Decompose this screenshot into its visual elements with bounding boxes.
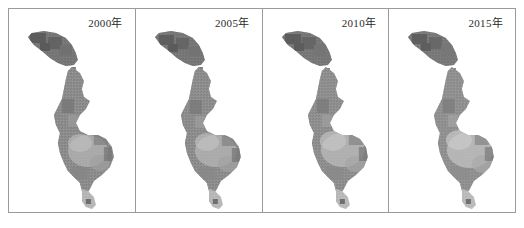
panel-year-label: 2000年	[88, 18, 123, 29]
map-panel: 2015年	[389, 9, 515, 212]
map-panel: 2010年	[263, 9, 390, 212]
map-raster-svg	[263, 23, 389, 212]
map-panel: 2000年	[9, 9, 136, 212]
map-raster-svg	[9, 23, 135, 212]
panel-year-label: 2005年	[215, 18, 250, 29]
map-image	[136, 23, 262, 212]
map-raster-svg	[136, 23, 262, 212]
map-panel: 2005年	[136, 9, 263, 212]
panel-year-label: 2015年	[469, 18, 504, 29]
map-image	[263, 23, 389, 212]
map-image	[9, 23, 135, 212]
panel-grid: 2000年	[8, 8, 516, 213]
panel-year-label: 2010年	[342, 18, 377, 29]
figure-container: 2000年	[0, 0, 524, 228]
map-image	[389, 23, 515, 212]
map-raster-svg	[389, 23, 515, 212]
